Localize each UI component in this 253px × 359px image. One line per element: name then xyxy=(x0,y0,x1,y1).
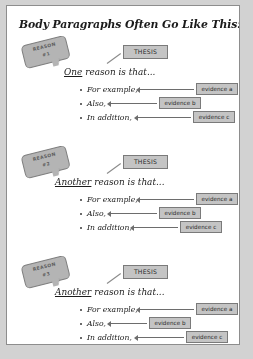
bullet-dot-icon xyxy=(80,103,82,105)
evidence-arrow-icon xyxy=(136,86,194,93)
bullet-label: In addition, xyxy=(87,332,132,343)
body-paragraph-section-3: REASON #3 THESIS Another reason is that.… xyxy=(7,256,240,345)
claim-line-3: Another reason is that... xyxy=(55,286,165,297)
arrow-line xyxy=(137,117,191,118)
bullet-label: For example, xyxy=(87,194,138,205)
evidence-box: evidence b xyxy=(159,207,201,219)
bullet-dot-icon xyxy=(80,213,82,215)
evidence-box: evidence a xyxy=(196,303,238,315)
evidence-arrow-icon xyxy=(107,320,147,327)
bullet-dot-icon xyxy=(80,117,82,119)
evidence-arrow-icon xyxy=(136,196,194,203)
bullet-dot-icon xyxy=(80,89,82,91)
thesis-leader-line xyxy=(107,273,121,284)
evidence-arrow-icon xyxy=(107,210,157,217)
body-paragraph-section-2: REASON #2 THESIS Another reason is that.… xyxy=(7,146,240,250)
bullet-row: For example, evidence a xyxy=(80,194,230,206)
claim-rest-text: reason is that... xyxy=(91,176,164,187)
arrow-line xyxy=(110,213,157,214)
arrow-line xyxy=(137,337,184,338)
poster-page: Body Paragraphs Often Go Like This: REAS… xyxy=(0,0,253,359)
arrow-line xyxy=(110,103,157,104)
evidence-arrow-icon xyxy=(130,224,178,231)
evidence-box: evidence c xyxy=(186,331,228,343)
thesis-box-1: THESIS xyxy=(123,45,168,59)
evidence-box: evidence a xyxy=(196,193,238,205)
reason-bubble-tail-icon xyxy=(52,58,61,67)
bullet-label: For example, xyxy=(87,304,138,315)
bullet-row: For example, evidence a xyxy=(80,304,230,316)
body-paragraph-section-1: REASON #1 THESIS One reason is that... F… xyxy=(7,36,240,140)
bullet-dot-icon xyxy=(80,309,82,311)
bullet-row: In addition, evidence c xyxy=(80,222,230,234)
bullet-row: In addition, evidence c xyxy=(80,112,230,124)
page-title: Body Paragraphs Often Go Like This: xyxy=(19,17,225,31)
bullet-label: In addition, xyxy=(87,112,132,123)
bullet-row: Also, evidence b xyxy=(80,208,230,220)
evidence-box: evidence b xyxy=(159,97,201,109)
thesis-leader-line xyxy=(107,53,121,64)
bullet-row: For example, evidence a xyxy=(80,84,230,96)
arrow-line xyxy=(110,323,147,324)
arrow-line xyxy=(139,199,194,200)
evidence-arrow-icon xyxy=(107,100,157,107)
bullet-dot-icon xyxy=(80,199,82,201)
evidence-box: evidence a xyxy=(196,83,238,95)
evidence-arrow-icon xyxy=(134,114,191,121)
bullet-row: Also, evidence b xyxy=(80,98,230,110)
claim-underlined-word: Another xyxy=(55,286,91,297)
bullet-label: Also, xyxy=(87,318,106,329)
poster-card: Body Paragraphs Often Go Like This: REAS… xyxy=(6,5,240,345)
evidence-box: evidence c xyxy=(193,111,235,123)
claim-rest-text: reason is that... xyxy=(91,286,164,297)
thesis-leader-line xyxy=(107,163,121,174)
claim-underlined-word: Another xyxy=(55,176,91,187)
evidence-arrow-icon xyxy=(134,334,184,341)
bullet-label: Also, xyxy=(87,98,106,109)
bullet-dot-icon xyxy=(80,337,82,339)
claim-rest-text: reason is that... xyxy=(82,66,155,77)
bullet-label: Also, xyxy=(87,208,106,219)
arrow-line xyxy=(133,227,178,228)
evidence-box: evidence b xyxy=(149,317,191,329)
claim-line-2: Another reason is that... xyxy=(55,176,165,187)
arrow-line xyxy=(139,89,194,90)
thesis-box-2: THESIS xyxy=(123,155,168,169)
claim-line-1: One reason is that... xyxy=(64,66,155,77)
evidence-box: evidence c xyxy=(180,221,222,233)
evidence-arrow-icon xyxy=(136,306,194,313)
bullet-row: In addition, evidence c xyxy=(80,332,230,344)
bullet-label: In addition, xyxy=(87,222,132,233)
bullet-dot-icon xyxy=(80,323,82,325)
claim-underlined-word: One xyxy=(64,66,82,77)
bullet-label: For example, xyxy=(87,84,138,95)
arrow-line xyxy=(139,309,194,310)
bullet-row: Also, evidence b xyxy=(80,318,230,330)
bullet-dot-icon xyxy=(80,227,82,229)
thesis-box-3: THESIS xyxy=(123,265,168,279)
